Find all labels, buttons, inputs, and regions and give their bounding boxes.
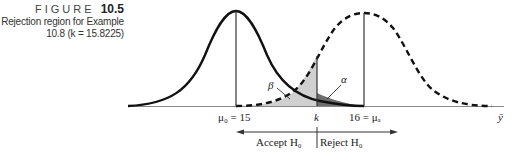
reject-arrowhead: [390, 130, 398, 135]
k-label: k: [314, 111, 320, 123]
alpha-pointer: [327, 85, 341, 99]
reject-label: Reject H₀: [320, 136, 363, 148]
beta-region: [236, 56, 317, 106]
alpha-label: α: [341, 73, 347, 85]
rejection-region-diagram: β α μ₀ = 15 k 16 = μₐ ȳ Accept H₀ Reject…: [0, 0, 527, 155]
beta-label: β: [267, 79, 274, 91]
axis-label: ȳ: [497, 111, 504, 123]
null-distribution-curve: [128, 11, 364, 106]
mua-label: 16 = μₐ: [349, 111, 381, 123]
accept-label: Accept H₀: [256, 136, 302, 148]
mu0-label: μ₀ = 15: [218, 111, 251, 123]
accept-arrowhead: [236, 130, 244, 135]
